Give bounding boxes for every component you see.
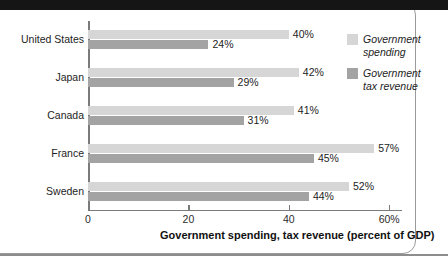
axis-tick-label-60: 60% (379, 213, 400, 225)
legend-label-tax-revenue: Governmenttax revenue (363, 67, 421, 92)
category-label-france: France (51, 147, 84, 159)
bar-value-revenue-united-states: 24% (212, 38, 233, 50)
axis-tick-label-0: 0 (85, 213, 91, 225)
bar-revenue-japan (88, 78, 234, 87)
bar-revenue-canada (88, 116, 244, 125)
legend-label-line1: Government (363, 67, 421, 80)
bar-value-spending-sweden: 52% (353, 180, 374, 192)
legend-label-line1: Government (363, 33, 421, 46)
bar-value-revenue-canada: 31% (248, 114, 269, 126)
category-label-canada: Canada (47, 109, 84, 121)
legend-swatch-revenue (347, 68, 358, 79)
bar-revenue-sweden (88, 192, 309, 201)
bar-spending-united-states (88, 30, 289, 39)
legend-item-spending[interactable]: Governmentspending (347, 33, 443, 58)
bar-value-revenue-japan: 29% (238, 76, 259, 88)
legend-label-line2: tax revenue (363, 80, 421, 93)
figure-container: 0204060% 40%24%42%29%41%31%57%45%52%44% … (0, 0, 448, 261)
axis-tick-label-40: 40 (283, 213, 295, 225)
axis-tick-40 (289, 205, 290, 211)
bar-value-revenue-sweden: 44% (313, 190, 334, 202)
bar-value-spending-united-states: 40% (293, 28, 314, 40)
value-axis-line (88, 210, 402, 211)
axis-tick-0 (88, 205, 89, 211)
legend-swatch-spending (347, 34, 358, 45)
bar-value-spending-japan: 42% (303, 66, 324, 78)
bar-spending-japan (88, 68, 299, 77)
category-label-japan: Japan (55, 71, 84, 83)
legend-label-line2: spending (363, 46, 421, 59)
legend-label-spending: Governmentspending (363, 33, 421, 58)
category-label-united-states: United States (21, 33, 84, 45)
chart-legend: GovernmentspendingGovernmenttax revenue (347, 33, 443, 101)
legend-item-tax-revenue[interactable]: Governmenttax revenue (347, 67, 443, 92)
bar-spending-sweden (88, 182, 349, 191)
bar-value-spending-canada: 41% (298, 104, 319, 116)
bar-revenue-france (88, 154, 314, 163)
axis-tick-60 (389, 205, 390, 211)
axis-tick-label-20: 20 (183, 213, 195, 225)
axis-tick-20 (188, 205, 189, 211)
bar-value-revenue-france: 45% (318, 152, 339, 164)
category-label-sweden: Sweden (46, 185, 84, 197)
bar-revenue-united-states (88, 40, 208, 49)
bar-value-spending-france: 57% (378, 142, 399, 154)
x-axis-title: Government spending, tax revenue (percen… (160, 229, 434, 241)
